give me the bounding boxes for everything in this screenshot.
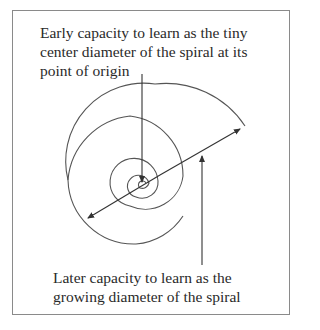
later-capacity-caption: Later capacity to learn as the growing d… — [53, 268, 283, 306]
spiral-curve — [68, 116, 183, 244]
diameter-arrow — [160, 129, 240, 175]
